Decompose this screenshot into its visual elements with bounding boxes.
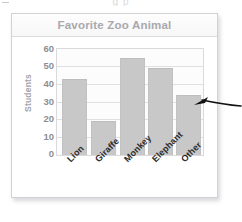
y-tick-label: 20: [32, 114, 54, 124]
chart-title: Favorite Zoo Animal: [12, 19, 217, 31]
y-axis-tick-labels: 60 50 40 30 20 10 0: [30, 48, 54, 156]
y-tick-label: 50: [32, 61, 54, 71]
chart-title-bar: Favorite Zoo Animal: [12, 14, 217, 37]
bar-lion: [62, 79, 87, 155]
y-tick-label: 60: [32, 44, 54, 54]
y-tick-label: 40: [32, 79, 54, 89]
x-axis-tick-labels: Lion Giraffe Monkey Elephant Other: [57, 157, 207, 199]
y-tick-label: 10: [32, 132, 54, 142]
cut-off-header-text: g p: [0, 0, 242, 6]
y-tick-label: 0: [32, 149, 54, 159]
chart-card: Favorite Zoo Animal Students 60 50 40 30…: [11, 13, 218, 198]
y-tick-label: 30: [32, 97, 54, 107]
